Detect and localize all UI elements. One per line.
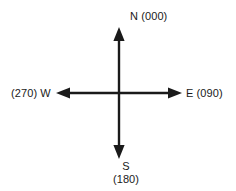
east-axis-label: E (090) (186, 87, 223, 100)
compass-rose-diagram: N (000) E (090) (270) W S (180) (0, 0, 236, 191)
south-axis-label: S (180) (104, 160, 148, 186)
south-axis-label-letter: S (104, 160, 148, 173)
south-arrowhead-icon (113, 145, 124, 159)
east-arrowhead-icon (168, 87, 182, 98)
north-axis-label: N (000) (130, 10, 167, 23)
west-arrowhead-icon (56, 87, 70, 98)
south-axis-label-bearing: (180) (104, 173, 148, 186)
north-arrowhead-icon (113, 27, 124, 41)
west-axis-label: (270) W (11, 87, 51, 100)
